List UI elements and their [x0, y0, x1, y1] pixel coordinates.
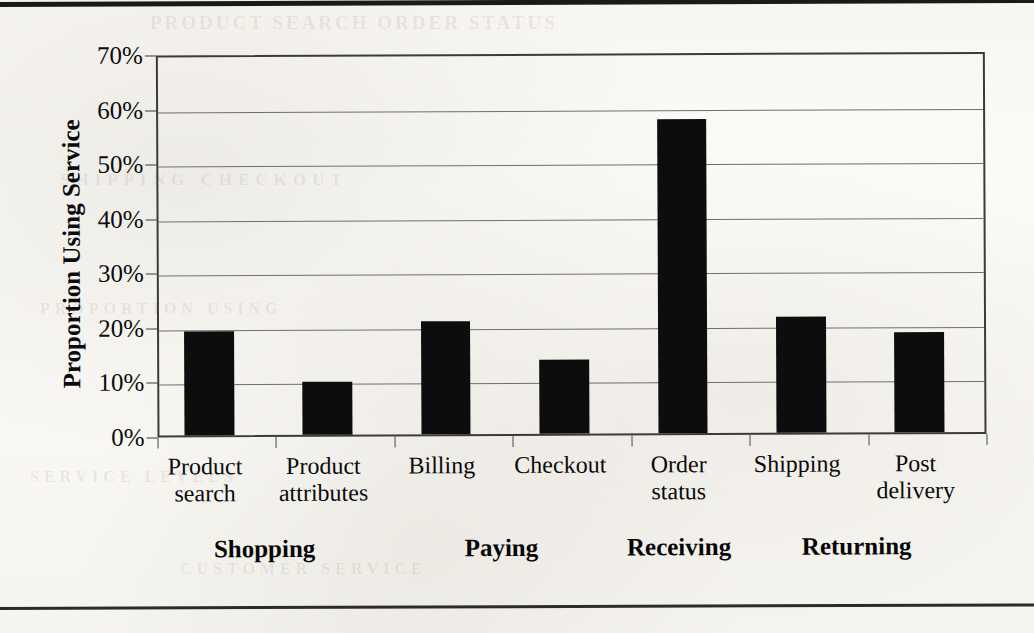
y-axis-tick-mark	[146, 383, 157, 384]
bar-series	[158, 54, 983, 58]
x-axis-group-label: Shopping	[146, 535, 383, 564]
x-axis-category-label-line: attributes	[264, 479, 383, 506]
plot-area	[156, 52, 987, 438]
x-axis-tick-mark	[276, 437, 277, 448]
x-axis-category-label: Productsearch	[146, 453, 265, 507]
x-axis-category-label-line: Order	[619, 451, 738, 478]
y-axis-tick-label: 0%	[40, 425, 144, 450]
bar	[539, 360, 589, 434]
x-axis-category-label-line: status	[620, 478, 739, 505]
y-axis-tick-label: 60%	[39, 97, 143, 122]
x-axis-group-label: Receiving	[620, 533, 739, 562]
x-axis-category-label: Orderstatus	[619, 451, 738, 505]
x-axis-category-label: Shipping	[738, 450, 857, 477]
gridline	[159, 327, 984, 332]
y-axis-tick-label: 10%	[40, 370, 144, 395]
x-axis-category-label: Productattributes	[264, 453, 383, 507]
bar	[421, 321, 471, 435]
x-axis-category-label-line: Product	[264, 453, 383, 480]
y-axis-tick-label: 20%	[40, 315, 144, 340]
x-axis-category-label-line: Post	[856, 450, 975, 477]
y-axis-tick-mark	[146, 274, 157, 275]
y-axis-tick-label: 70%	[39, 43, 143, 68]
y-axis-tick-label: 40%	[40, 206, 144, 231]
y-axis-tick-mark	[146, 328, 157, 329]
x-axis-category-label-line: Billing	[383, 452, 502, 479]
x-axis-tick-mark	[987, 434, 988, 445]
gridline	[159, 218, 984, 223]
x-axis-category-label: Postdelivery	[856, 450, 975, 504]
y-axis-tick-mark	[146, 219, 157, 220]
x-axis-category-label-line: delivery	[856, 477, 975, 504]
x-axis-category-label-line: search	[146, 480, 265, 507]
bar	[184, 331, 234, 435]
bar-chart-figure: Proportion Using Service 0%10%20%30%40%5…	[0, 0, 1034, 633]
gridlines	[158, 54, 983, 58]
y-axis-tick-mark	[145, 55, 156, 56]
y-axis-tick-mark	[145, 110, 156, 111]
x-axis-tick-mark	[868, 434, 869, 445]
x-axis-category-label: Checkout	[501, 451, 620, 478]
x-axis-tick-mark	[631, 435, 632, 446]
bar	[776, 316, 826, 432]
x-axis-group-label: Paying	[383, 533, 620, 562]
x-axis-category-label-line: Shipping	[738, 450, 857, 477]
y-axis-tick-label: 50%	[39, 152, 143, 177]
y-axis-tick-mark	[147, 437, 158, 438]
x-axis-tick-mark	[750, 435, 751, 446]
gridline	[159, 272, 984, 277]
bar	[894, 332, 944, 432]
x-axis-tick-mark	[513, 436, 514, 447]
y-axis-tick-mark	[145, 165, 156, 166]
x-axis-category-label-line: Checkout	[501, 451, 620, 478]
gridline	[158, 163, 983, 168]
y-axis-tick-label: 30%	[40, 261, 144, 286]
gridline	[158, 108, 983, 113]
x-axis-category-label: Billing	[383, 452, 502, 479]
bar	[657, 119, 708, 433]
x-axis-tick-mark	[158, 437, 159, 448]
bar	[303, 381, 353, 435]
x-axis-category-label-line: Product	[146, 453, 265, 480]
x-axis-tick-mark	[394, 436, 395, 447]
x-axis-group-label: Returning	[738, 532, 975, 561]
